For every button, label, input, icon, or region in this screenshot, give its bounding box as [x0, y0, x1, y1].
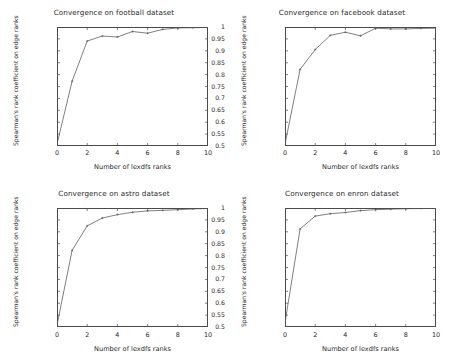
- x-axis-tick-label: 8: [176, 149, 180, 157]
- y-axis-label: Spearman's rank coefficient on edge rank…: [10, 27, 21, 146]
- data-point-marker: [435, 27, 436, 29]
- data-point-marker: [177, 27, 179, 29]
- data-point-marker: [390, 28, 392, 30]
- plot-area: [57, 27, 208, 146]
- data-point-marker: [131, 30, 133, 32]
- data-point-marker: [162, 28, 164, 30]
- data-point-marker: [344, 31, 346, 33]
- chart-title: Convergence on astro dataset: [0, 189, 228, 198]
- data-point-marker: [162, 209, 164, 211]
- chart-panel-facebook: Convergence on facebook dataset Spearman…: [228, 0, 456, 181]
- x-axis-tick-label: 6: [374, 149, 378, 157]
- x-axis-tick-label: 2: [85, 331, 89, 339]
- series-line: [57, 27, 208, 144]
- x-axis-tick-label: 6: [374, 331, 378, 339]
- x-axis-tick-label: 2: [313, 149, 317, 157]
- data-point-marker: [192, 27, 194, 29]
- x-axis-tick-label: 6: [146, 149, 150, 157]
- x-axis-label: Number of lexdfs ranks: [285, 345, 436, 353]
- series-line: [285, 28, 436, 144]
- x-axis-tick-label: 4: [343, 149, 347, 157]
- data-point-marker: [71, 80, 73, 82]
- data-point-marker: [147, 210, 149, 212]
- data-point-marker: [405, 28, 407, 30]
- x-axis-tick-label: 0: [55, 331, 59, 339]
- chart-panel-enron: Convergence on enron dataset Spearman's …: [228, 181, 456, 363]
- x-axis-tick-label: 4: [343, 331, 347, 339]
- y-axis-label: Spearman's rank coefficient on edge rank…: [238, 27, 249, 146]
- x-axis-label: Number of lexdfs ranks: [57, 345, 208, 353]
- data-point-marker: [116, 214, 118, 216]
- plot-area: [285, 27, 436, 146]
- data-point-marker: [57, 324, 58, 326]
- x-axis-label: Number of lexdfs ranks: [285, 163, 436, 171]
- data-point-marker: [375, 209, 377, 211]
- x-axis-tick-label: 0: [283, 149, 287, 157]
- series-line: [285, 208, 436, 322]
- data-point-marker: [147, 32, 149, 34]
- data-point-marker: [86, 40, 88, 42]
- x-axis-tick-label: 0: [283, 331, 287, 339]
- x-axis-tick-label: 8: [404, 149, 408, 157]
- data-point-marker: [405, 208, 407, 210]
- data-point-marker: [131, 211, 133, 213]
- series-line: [57, 208, 208, 325]
- data-point-marker: [285, 143, 286, 145]
- chart-title: Convergence on football dataset: [0, 8, 228, 17]
- plot-area: [57, 208, 208, 327]
- x-axis-tick-label: 10: [432, 149, 440, 157]
- chart-title: Convergence on enron dataset: [228, 189, 456, 198]
- data-point-marker: [390, 208, 392, 210]
- chart-title: Convergence on facebook dataset: [228, 8, 456, 17]
- x-axis-tick-label: 10: [204, 149, 212, 157]
- data-point-marker: [359, 210, 361, 212]
- x-axis-tick-label: 0: [55, 149, 59, 157]
- chart-panel-football: Convergence on football dataset Spearman…: [0, 0, 228, 181]
- data-point-marker: [192, 208, 194, 210]
- data-point-marker: [101, 35, 103, 37]
- data-point-marker: [177, 209, 179, 211]
- x-axis-tick-label: 6: [146, 331, 150, 339]
- x-axis-label: Number of lexdfs ranks: [57, 163, 208, 171]
- x-axis-tick-label: 10: [432, 331, 440, 339]
- data-point-marker: [116, 36, 118, 38]
- x-axis-tick-label: 2: [313, 331, 317, 339]
- plot-area: [285, 208, 436, 327]
- x-axis-tick-label: 2: [85, 149, 89, 157]
- x-axis-tick-label: 4: [115, 149, 119, 157]
- y-axis-label: Spearman's rank coefficient on edge rank…: [238, 208, 249, 327]
- data-point-marker: [329, 213, 331, 215]
- chart-panel-astro: Convergence on astro dataset Spearman's …: [0, 181, 228, 363]
- data-point-marker: [344, 211, 346, 213]
- data-point-marker: [285, 322, 286, 324]
- figure-grid: Convergence on football dataset Spearman…: [0, 0, 456, 363]
- x-axis-tick-label: 8: [176, 331, 180, 339]
- x-axis-tick-label: 10: [204, 331, 212, 339]
- x-axis-tick-label: 8: [404, 331, 408, 339]
- y-axis-label: Spearman's rank coefficient on edge rank…: [10, 208, 21, 327]
- x-axis-tick-label: 4: [115, 331, 119, 339]
- data-point-marker: [420, 27, 422, 29]
